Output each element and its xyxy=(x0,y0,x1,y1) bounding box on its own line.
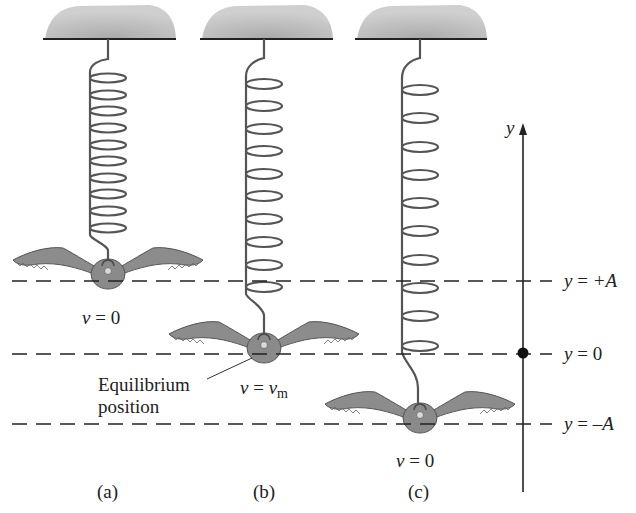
spring-oscillation-diagram xyxy=(0,0,636,513)
velocity-label-c: v = 0 xyxy=(396,451,434,470)
axis-label-y: y xyxy=(506,118,514,137)
equilibrium-pointer xyxy=(207,358,252,379)
caption-c: (c) xyxy=(408,482,429,501)
spring-a xyxy=(90,39,126,262)
ref-label-minus-a: y = –A xyxy=(564,414,614,433)
ceiling-a xyxy=(43,5,176,39)
caption-a: (a) xyxy=(97,482,118,501)
ceiling-b xyxy=(200,5,333,39)
velocity-label-b: v = vm xyxy=(240,378,288,397)
ceiling-c xyxy=(355,5,487,39)
equilibrium-label: Equilibrium position xyxy=(98,374,190,418)
caption-b: (b) xyxy=(253,482,275,501)
velocity-label-a: v = 0 xyxy=(82,308,120,327)
mass-bird-c xyxy=(325,392,515,433)
ref-label-plus-a: y = +A xyxy=(564,271,617,290)
y-axis xyxy=(518,123,529,492)
origin-dot xyxy=(518,348,529,359)
spring-c xyxy=(402,39,438,406)
spring-b xyxy=(246,39,282,336)
ref-label-zero: y = 0 xyxy=(564,344,602,363)
